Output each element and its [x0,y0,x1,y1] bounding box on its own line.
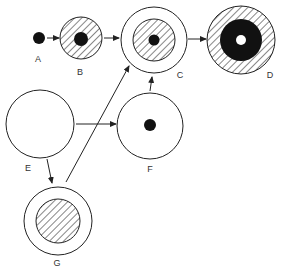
node-g: G [24,187,92,268]
node-f: F [117,93,183,174]
node-d: D [207,6,275,80]
label-e: E [25,163,31,173]
solid-dot-icon [144,119,156,131]
empty-circle [6,90,74,158]
label-c: C [177,70,184,80]
solid-dot-icon [149,35,160,46]
solid-dot-icon [74,32,88,46]
label-g: G [53,258,60,268]
label-d: D [267,70,274,80]
solid-dot-icon [33,32,45,44]
label-f: F [147,164,153,174]
edge-e-g [47,159,52,183]
diagram-canvas: A B C D E F G [0,0,283,271]
edge-f-c [150,77,152,91]
node-e: E [6,90,74,173]
hatched-disc [36,199,80,243]
node-c: C [121,7,187,80]
node-a: A [33,32,45,64]
label-a: A [35,54,41,64]
node-b: B [60,17,102,77]
white-center [236,35,246,45]
label-b: B [77,67,83,77]
